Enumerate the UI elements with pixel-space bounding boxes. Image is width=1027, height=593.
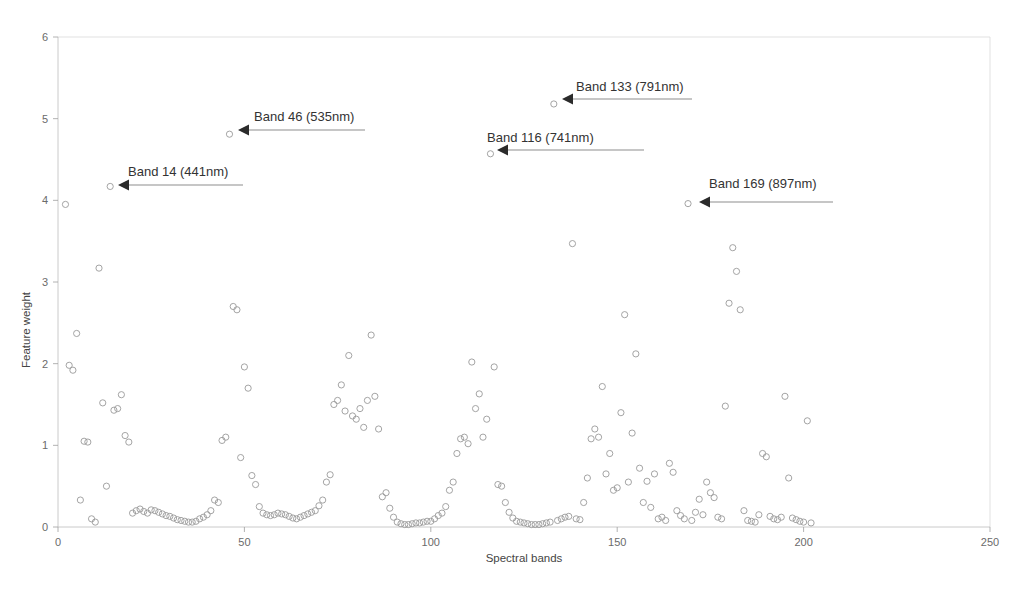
y-axis-title: Feature weight [20, 291, 32, 368]
data-point [383, 490, 389, 496]
data-point [103, 483, 109, 489]
data-point [230, 303, 236, 309]
data-point [368, 332, 374, 338]
data-point [499, 483, 505, 489]
data-point [446, 487, 452, 493]
data-point [223, 434, 229, 440]
data-point [234, 307, 240, 313]
data-point [170, 515, 176, 521]
data-point [293, 516, 299, 522]
data-point [618, 410, 624, 416]
annotation-arrowhead-icon [562, 94, 573, 105]
x-tick-label: 0 [55, 536, 61, 548]
data-point [316, 503, 322, 509]
y-tick-label: 3 [42, 276, 48, 288]
data-point [238, 454, 244, 460]
data-point [689, 517, 695, 523]
data-point [144, 510, 150, 516]
data-point [625, 479, 631, 485]
data-point [692, 509, 698, 515]
data-point [249, 472, 255, 478]
y-tick-label: 5 [42, 113, 48, 125]
data-point [450, 479, 456, 485]
data-point [96, 265, 102, 271]
data-point [782, 393, 788, 399]
data-point [789, 515, 795, 521]
annotation-label: Band 46 (535nm) [254, 109, 354, 124]
data-point [480, 434, 486, 440]
annotation-label: Band 14 (441nm) [128, 164, 228, 179]
y-tick-label: 1 [42, 439, 48, 451]
data-point [331, 401, 337, 407]
annotation-label: Band 133 (791nm) [576, 79, 684, 94]
data-point [636, 465, 642, 471]
data-point [346, 352, 352, 358]
data-point [70, 367, 76, 373]
x-tick-label: 100 [422, 536, 440, 548]
data-point [241, 364, 247, 370]
data-point [558, 516, 564, 522]
data-point [349, 413, 355, 419]
data-point [469, 359, 475, 365]
data-point [126, 439, 132, 445]
data-point [122, 432, 128, 438]
data-point [599, 383, 605, 389]
plot-canvas: 0123456050100150200250 Band 14 (441nm)Ba… [0, 0, 1027, 593]
data-point [506, 509, 512, 515]
annotation-arrowhead-icon [238, 125, 249, 136]
data-point [484, 416, 490, 422]
plot-frame [58, 37, 990, 527]
data-point [622, 312, 628, 318]
data-point [685, 201, 691, 207]
data-point [387, 505, 393, 511]
data-point [208, 508, 214, 514]
annotation-169: Band 169 (897nm) [699, 176, 833, 208]
data-point [301, 512, 307, 518]
data-point [372, 393, 378, 399]
data-point [737, 307, 743, 313]
data-point [704, 479, 710, 485]
data-point [715, 514, 721, 520]
data-point [763, 454, 769, 460]
data-point [677, 512, 683, 518]
data-point [726, 300, 732, 306]
data-point [554, 517, 560, 523]
data-point [640, 499, 646, 505]
data-point [502, 499, 508, 505]
data-point [644, 478, 650, 484]
data-point [581, 499, 587, 505]
annotation-label: Band 116 (741nm) [487, 130, 594, 145]
data-point [551, 101, 557, 107]
data-point [584, 475, 590, 481]
data-point [722, 403, 728, 409]
data-point [305, 511, 311, 517]
data-point [487, 151, 493, 157]
data-point [569, 241, 575, 247]
data-point [260, 510, 266, 516]
annotation-14: Band 14 (441nm) [118, 164, 243, 191]
data-point [670, 469, 676, 475]
data-point [577, 517, 583, 523]
data-point [342, 408, 348, 414]
data-point [495, 481, 501, 487]
data-point [711, 495, 717, 501]
data-point [286, 513, 292, 519]
axis-tick-labels: 0123456050100150200250 [42, 31, 999, 548]
annotation-label: Band 169 (897nm) [709, 176, 817, 191]
data-point [801, 519, 807, 525]
data-point [256, 503, 262, 509]
data-point [77, 497, 83, 503]
y-tick-label: 6 [42, 31, 48, 43]
data-point [335, 397, 341, 403]
data-point [297, 514, 303, 520]
data-point [592, 426, 598, 432]
data-point [219, 437, 225, 443]
data-point [730, 245, 736, 251]
data-point [566, 513, 572, 519]
data-point [659, 514, 665, 520]
x-axis-title: Spectral bands [486, 552, 563, 564]
data-point [454, 450, 460, 456]
data-point [752, 519, 758, 525]
data-point [376, 426, 382, 432]
data-point [100, 400, 106, 406]
